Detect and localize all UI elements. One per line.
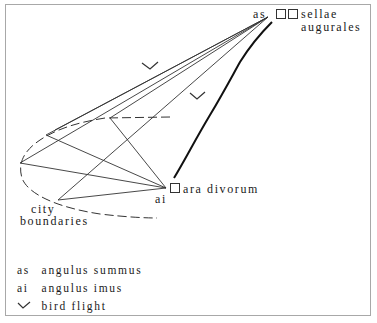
as-label: as	[253, 8, 266, 21]
sight-lines	[20, 17, 268, 200]
checkmark-icon	[142, 62, 158, 69]
checkmark-icon	[190, 92, 205, 99]
boundaries-label: boundaries	[20, 215, 89, 228]
ara-box	[170, 183, 180, 193]
sella-box-2	[288, 9, 298, 19]
ai-label: ai	[155, 193, 167, 206]
checkmark-icon	[17, 300, 37, 312]
ara-divorum-label: ara divorum	[183, 183, 259, 196]
legend-item-ai: ai angulus imus	[17, 282, 123, 294]
legend-item-as: as angulus summus	[17, 264, 142, 276]
legend-item-bird-flight: bird flight	[17, 300, 107, 312]
augurales-label: augurales	[301, 21, 361, 34]
sella-box-1	[276, 9, 286, 19]
